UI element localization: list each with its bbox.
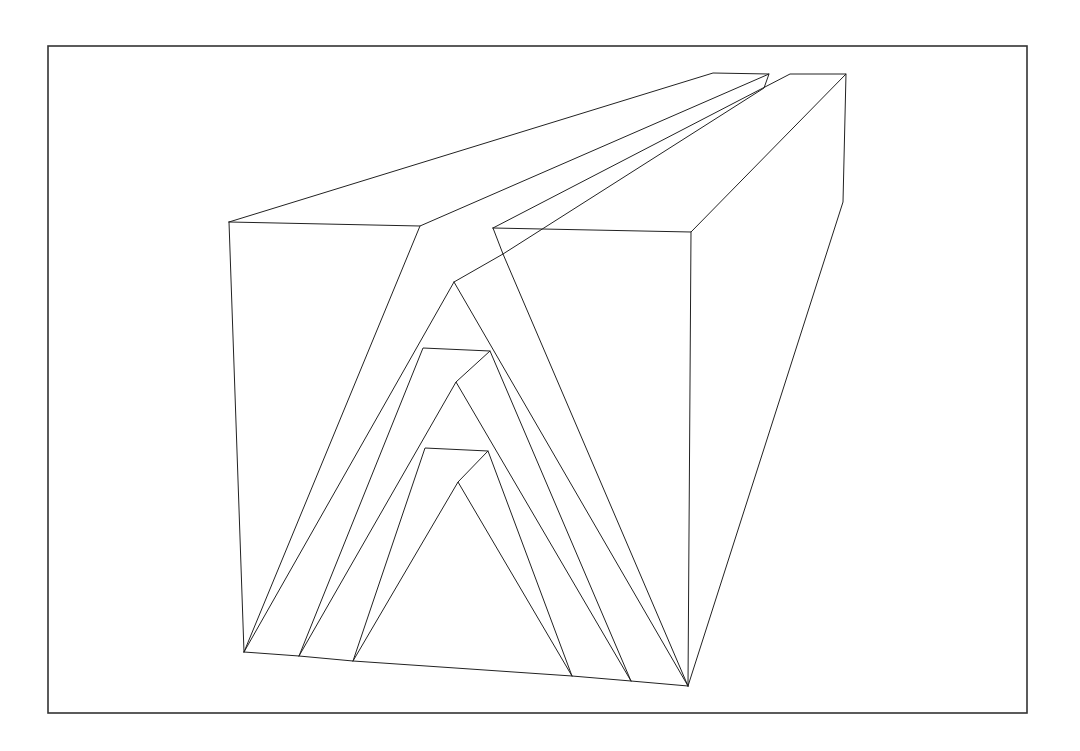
wireframe-edges	[229, 73, 846, 686]
left-block-front-left-edge	[229, 222, 244, 652]
right-block-top-face	[493, 74, 846, 232]
inner-ridge	[458, 451, 488, 482]
figure-frame	[48, 46, 1027, 713]
outer-arch-left	[244, 226, 420, 652]
wireframe-drawing	[0, 0, 1080, 751]
outer-arch-right	[493, 228, 688, 686]
left-block-top-face	[229, 73, 769, 226]
outer-apex-right	[454, 282, 688, 686]
inner-arch	[353, 448, 572, 676]
right-block-front-right-edge	[688, 232, 691, 686]
outer-ridge	[454, 254, 503, 282]
left-block-back-notch	[503, 74, 769, 254]
middle-ridge	[456, 351, 490, 382]
inner-apex	[353, 482, 572, 676]
outer-apex-left	[244, 282, 454, 652]
right-block-side-edge	[688, 74, 846, 686]
bottom-edge	[244, 652, 688, 686]
